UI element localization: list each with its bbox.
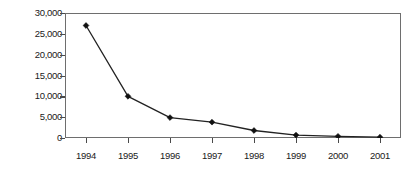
y-axis-tick-mark bbox=[60, 55, 65, 56]
data-point-marker bbox=[125, 93, 131, 99]
x-axis-tick-label-group: 19941995199619971998199920002001 bbox=[0, 150, 419, 166]
x-axis-tick-mark bbox=[296, 138, 297, 143]
x-axis-tick-mark bbox=[380, 138, 381, 143]
y-axis-tick-label: 30,000 bbox=[22, 8, 62, 18]
y-axis-tick-mark bbox=[60, 34, 65, 35]
x-axis-tick-label: 1995 bbox=[106, 150, 150, 161]
line-chart-figure: Handset price (yuan) 05,00010,00015,0002… bbox=[0, 0, 419, 182]
x-axis-tick-label: 1999 bbox=[274, 150, 318, 161]
x-axis-tick-mark bbox=[338, 138, 339, 143]
x-axis-tick-mark bbox=[170, 138, 171, 143]
y-axis-tick-label: 5,000 bbox=[22, 112, 62, 122]
data-point-marker bbox=[167, 115, 173, 121]
x-axis-tick-label: 1996 bbox=[148, 150, 192, 161]
x-axis-tick-label: 1998 bbox=[232, 150, 276, 161]
y-axis-tick-label: 25,000 bbox=[22, 29, 62, 39]
data-point-marker bbox=[251, 128, 257, 134]
x-axis-tick-label: 1997 bbox=[190, 150, 234, 161]
data-point-marker bbox=[83, 23, 89, 29]
x-axis-tick-mark bbox=[212, 138, 213, 143]
y-axis-tick-mark bbox=[60, 13, 65, 14]
y-axis-tick-label: 0 bbox=[22, 133, 62, 143]
y-axis-tick-mark bbox=[60, 76, 65, 77]
y-axis-tick-label: 10,000 bbox=[22, 92, 62, 102]
data-series-line bbox=[86, 26, 380, 138]
y-axis-tick-label: 15,000 bbox=[22, 71, 62, 81]
y-axis-tick-mark bbox=[60, 117, 65, 118]
x-axis-tick-mark bbox=[254, 138, 255, 143]
x-axis-tick-label: 1994 bbox=[64, 150, 108, 161]
data-point-marker bbox=[209, 119, 215, 125]
y-axis-tick-label-group: 05,00010,00015,00020,00025,00030,000 bbox=[22, 8, 62, 138]
y-axis-tick-mark bbox=[60, 96, 65, 97]
y-axis-tick-mark bbox=[60, 138, 65, 139]
data-line-layer bbox=[65, 13, 401, 138]
x-axis-tick-label: 2000 bbox=[316, 150, 360, 161]
x-axis-tick-label: 2001 bbox=[358, 150, 402, 161]
x-axis-tick-mark bbox=[128, 138, 129, 143]
x-axis-tick-mark bbox=[86, 138, 87, 143]
y-axis-tick-label: 20,000 bbox=[22, 50, 62, 60]
